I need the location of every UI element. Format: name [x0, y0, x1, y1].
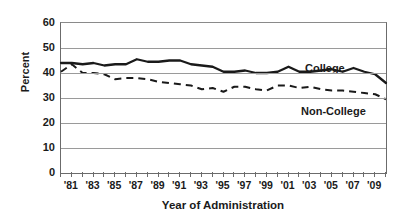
x-tick	[179, 172, 180, 177]
x-tick	[114, 172, 115, 177]
y-tick-label: 40	[28, 67, 55, 77]
x-tick	[103, 172, 104, 177]
x-tick	[288, 172, 289, 177]
x-tick	[71, 172, 72, 177]
x-tick	[277, 172, 278, 177]
x-tick-label: '01	[280, 179, 294, 191]
x-tick	[147, 172, 148, 177]
x-tick-label: '91	[172, 179, 186, 191]
x-tick-label: '89	[150, 179, 164, 191]
y-tick-label: 30	[28, 92, 55, 102]
gridline	[61, 48, 386, 49]
x-tick	[93, 172, 94, 177]
gridline	[61, 98, 386, 99]
x-tick	[363, 172, 364, 177]
x-tick	[233, 172, 234, 177]
x-tick	[190, 172, 191, 177]
x-tick	[212, 172, 213, 177]
x-tick	[201, 172, 202, 177]
gridline	[61, 148, 386, 149]
x-tick-label: '03	[302, 179, 316, 191]
gridline	[61, 73, 386, 74]
x-tick	[168, 172, 169, 177]
y-tick-label: 0	[28, 167, 55, 177]
x-tick-label: '87	[129, 179, 143, 191]
x-tick	[82, 172, 83, 177]
x-tick-label: '95	[215, 179, 229, 191]
x-tick	[60, 172, 61, 177]
x-tick	[266, 172, 267, 177]
chart-container: Percent 6050403020100 College Non-Colleg…	[0, 0, 418, 222]
y-tick-label: 20	[28, 117, 55, 127]
x-tick-label: '05	[324, 179, 338, 191]
x-tick-label: '07	[345, 179, 359, 191]
x-tick-label: '93	[194, 179, 208, 191]
y-tick-label: 60	[28, 17, 55, 27]
x-tick	[125, 172, 126, 177]
x-tick	[353, 172, 354, 177]
x-tick	[136, 172, 137, 177]
x-tick	[385, 172, 386, 177]
gridline	[61, 123, 386, 124]
y-tick-label: 10	[28, 142, 55, 152]
x-tick-label: '85	[107, 179, 121, 191]
x-tick-label: '09	[367, 179, 381, 191]
plot-area: College Non-College	[60, 22, 387, 174]
x-tick	[223, 172, 224, 177]
x-tick	[158, 172, 159, 177]
x-tick	[244, 172, 245, 177]
x-axis-title: Year of Administration	[60, 199, 386, 211]
x-tick-label: '81	[64, 179, 78, 191]
x-axis-tick-labels: '81'83'85'87'89'91'93'95'97'99'01'03'05'…	[0, 179, 418, 195]
x-tick-label: '97	[237, 179, 251, 191]
x-tick	[374, 172, 375, 177]
series-label-non-college: Non-College	[301, 105, 366, 117]
x-tick	[342, 172, 343, 177]
x-tick	[320, 172, 321, 177]
x-tick-label: '99	[259, 179, 273, 191]
y-tick-label: 50	[28, 42, 55, 52]
x-tick	[255, 172, 256, 177]
x-tick	[309, 172, 310, 177]
x-tick	[331, 172, 332, 177]
x-tick	[298, 172, 299, 177]
x-tick-label: '83	[85, 179, 99, 191]
